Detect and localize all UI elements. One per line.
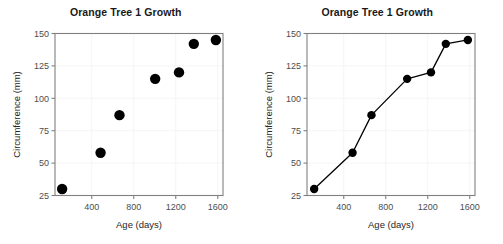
data-point: [95, 148, 105, 158]
y-tick-label: 25: [290, 191, 300, 201]
x-tick-label: 1200: [166, 202, 186, 212]
x-tick-label: 1600: [208, 202, 228, 212]
data-point: [367, 111, 375, 119]
tick-labels-line: 25507510012515040080012001600: [285, 29, 479, 212]
data-point: [309, 185, 317, 193]
data-point: [402, 75, 410, 83]
figure-container: Orange Tree 1 Growth 2550751001251504008…: [0, 0, 503, 244]
data-series-line: [314, 40, 468, 189]
x-axis-title-scatter: Age (days): [116, 219, 162, 230]
y-tick-label: 25: [39, 191, 49, 201]
data-points-scatter: [57, 35, 221, 194]
data-point: [463, 36, 471, 44]
x-axis-title-line: Age (days): [368, 219, 414, 230]
scatter-plot-svg: 25507510012515040080012001600 Age (days)…: [0, 0, 252, 244]
data-point: [189, 39, 199, 49]
y-tick-label: 150: [34, 29, 49, 39]
line-plot-svg: 25507510012515040080012001600 Age (days)…: [252, 0, 503, 244]
y-tick-label: 50: [39, 158, 49, 168]
data-point: [174, 67, 184, 77]
ticks-scatter: [52, 34, 218, 200]
data-point: [441, 40, 449, 48]
ticks-line: [303, 34, 469, 200]
y-tick-label: 125: [34, 61, 49, 71]
data-point: [348, 149, 356, 157]
x-tick-label: 800: [378, 202, 393, 212]
y-axis-title-scatter: Circumference (mm): [11, 71, 22, 158]
x-tick-label: 400: [336, 202, 351, 212]
y-tick-label: 125: [285, 61, 300, 71]
y-axis-title-line: Circumference (mm): [263, 71, 274, 158]
y-tick-label: 150: [285, 29, 300, 39]
data-point: [114, 110, 124, 120]
data-point: [57, 184, 67, 194]
x-tick-label: 400: [84, 202, 99, 212]
chart-panel-line: Orange Tree 1 Growth 2550751001251504008…: [252, 0, 503, 244]
gridlines-scatter: [55, 34, 223, 196]
y-tick-label: 50: [290, 158, 300, 168]
y-tick-label: 100: [34, 94, 49, 104]
x-tick-label: 1600: [459, 202, 479, 212]
chart-panel-scatter: Orange Tree 1 Growth 2550751001251504008…: [0, 0, 252, 244]
x-tick-label: 800: [126, 202, 141, 212]
data-point: [426, 68, 434, 76]
data-point: [150, 74, 160, 84]
y-tick-label: 100: [285, 94, 300, 104]
y-tick-label: 75: [39, 126, 49, 136]
data-point: [211, 35, 221, 45]
y-tick-label: 75: [290, 126, 300, 136]
x-tick-label: 1200: [417, 202, 437, 212]
plot-frame-scatter: [55, 34, 223, 196]
